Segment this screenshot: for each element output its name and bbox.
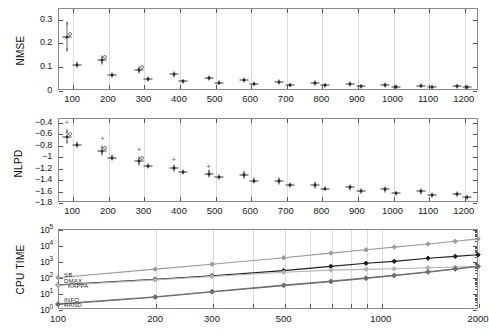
nlpd-x-tick-mark: [358, 197, 359, 201]
nmse-x-tick-label: 600: [242, 93, 258, 104]
nlpd-x-tick-mark-top: [73, 119, 74, 123]
nmse-gridline: [394, 9, 395, 89]
nmse-gridline: [358, 9, 359, 89]
nlpd-x-tick-label: 500: [207, 205, 223, 216]
nmse-gridline: [287, 9, 288, 89]
nmse-data-point: [243, 78, 246, 81]
cputime-marker-dmax: [364, 261, 368, 265]
nlpd-data-point: [384, 188, 387, 191]
nlpd-gridline: [109, 119, 110, 201]
nmse-x-tick-label: 1000: [382, 93, 403, 104]
nlpd-y-tick-label: −1.8: [0, 197, 52, 207]
panel-nmse: NMSE 00.10.20.3 100200300400500600700800…: [0, 0, 488, 112]
nlpd-plus-marker: +: [207, 163, 211, 170]
nlpd-data-point: [359, 190, 362, 193]
nmse-x-tick-label: 800: [313, 93, 329, 104]
nlpd-y-tick-mark-right: [473, 146, 477, 147]
nmse-gridline: [144, 9, 145, 89]
nmse-gridline: [109, 9, 110, 89]
nlpd-y-tick-label: −1.2: [0, 163, 52, 173]
nmse-x-tick-mark-top: [109, 9, 110, 13]
nlpd-y-tick-label: −1.6: [0, 186, 52, 196]
nmse-x-tick-mark: [180, 85, 181, 89]
cputime-marker-kappa: [392, 267, 396, 271]
nlpd-plus-marker: +: [65, 119, 69, 126]
nlpd-gridline: [287, 119, 288, 201]
nlpd-plus-marker: +: [100, 134, 104, 141]
nmse-axes: [58, 8, 478, 90]
nmse-data-point: [466, 86, 469, 89]
nmse-x-tick-mark-top: [180, 9, 181, 13]
nmse-x-tick-mark-top: [322, 9, 323, 13]
nlpd-x-tick-label: 100: [64, 205, 80, 216]
nlpd-plus-marker: +: [172, 155, 176, 162]
nlpd-x-tick-mark-top: [465, 119, 466, 123]
nmse-gridline: [180, 9, 181, 89]
nlpd-x-tick-mark: [251, 197, 252, 201]
nlpd-gridline: [358, 119, 359, 201]
nmse-data-point: [430, 86, 433, 89]
nlpd-y-tick-label: −0.8: [0, 140, 52, 150]
nmse-x-tick-label: 100: [64, 93, 80, 104]
nlpd-x-tick-mark-top: [358, 119, 359, 123]
nlpd-open-marker: [140, 156, 144, 160]
nlpd-x-tick-mark-top: [429, 119, 430, 123]
nlpd-data-point: [278, 179, 281, 182]
nmse-y-tick-mark: [59, 91, 63, 92]
nlpd-x-tick-label: 1000: [382, 205, 403, 216]
nlpd-data-point: [217, 175, 220, 178]
nmse-data-point: [395, 85, 398, 88]
nlpd-data-point: [111, 156, 114, 159]
cputime-marker-sb: [392, 245, 396, 249]
nlpd-x-tick-mark-top: [322, 119, 323, 123]
nmse-y-tick-mark-right: [473, 43, 477, 44]
nlpd-gridline: [429, 119, 430, 201]
cputime-marker-sb: [364, 248, 368, 252]
nmse-y-tick-mark-right: [473, 91, 477, 92]
nmse-y-tick-label: 0: [0, 85, 52, 95]
cputime-marker-sb: [153, 267, 157, 271]
nlpd-y-tick-mark-right: [473, 169, 477, 170]
nlpd-gridline: [465, 119, 466, 201]
nmse-data-point: [288, 84, 291, 87]
nmse-data-point: [253, 82, 256, 85]
nlpd-gridline: [180, 119, 181, 201]
nlpd-y-tick-mark: [59, 123, 63, 124]
nmse-x-tick-label: 1200: [453, 93, 474, 104]
nlpd-data-point: [430, 193, 433, 196]
nmse-gridline: [322, 9, 323, 89]
nlpd-data-point: [455, 193, 458, 196]
nmse-x-tick-mark-top: [465, 9, 466, 13]
nlpd-data-point: [349, 186, 352, 189]
nlpd-x-tick-mark-top: [109, 119, 110, 123]
nlpd-y-tick-label: −1.4: [0, 174, 52, 184]
nmse-x-tick-mark-top: [216, 9, 217, 13]
nmse-data-point: [111, 74, 114, 77]
cputime-marker-sb: [329, 251, 333, 255]
nlpd-x-tick-mark: [73, 197, 74, 201]
nlpd-y-tick-mark: [59, 192, 63, 193]
nlpd-gridline: [216, 119, 217, 201]
nlpd-x-tick-mark: [144, 197, 145, 201]
nmse-data-point: [455, 85, 458, 88]
nlpd-data-point: [101, 149, 104, 152]
nlpd-x-tick-label: 1200: [453, 205, 474, 216]
nlpd-gridline: [73, 119, 74, 201]
cputime-legend-label-kappa: KAPPA: [68, 283, 89, 289]
nlpd-x-tick-mark: [180, 197, 181, 201]
cputime-marker-dmax: [426, 256, 430, 260]
nmse-x-tick-label: 900: [349, 93, 365, 104]
nmse-data-point: [384, 84, 387, 87]
nmse-x-tick-mark-top: [251, 9, 252, 13]
nlpd-y-tick-mark: [59, 180, 63, 181]
nlpd-open-marker: [103, 146, 107, 150]
nlpd-data-point: [75, 143, 78, 146]
nmse-x-tick-mark: [73, 85, 74, 89]
cputime-marker-sb: [281, 256, 285, 260]
cputime-marker-sb: [210, 262, 214, 266]
nmse-open-marker: [68, 32, 72, 36]
nmse-x-tick-mark-top: [394, 9, 395, 13]
nlpd-data-point: [172, 167, 175, 170]
nmse-x-tick-mark: [144, 85, 145, 89]
